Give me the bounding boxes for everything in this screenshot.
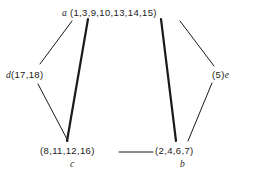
node-a-name: a [62, 8, 67, 18]
node-e-name: e [225, 70, 229, 80]
node-a: a(1,3,9,10,13,14,15) [62, 8, 157, 19]
node-b-set: (2,4,6,7) [155, 145, 194, 156]
node-e-set: (5) [212, 69, 225, 80]
edge-a-d [40, 21, 72, 64]
edge-a-c [67, 19, 88, 141]
node-d-set: (17,18) [11, 69, 44, 80]
edge-d-c [38, 84, 68, 141]
edge-a-b [161, 19, 176, 141]
node-b-name: b [180, 160, 185, 170]
edge-layer [0, 0, 254, 175]
graph-diagram: a(1,3,9,10,13,14,15) d(17,18) (5)e (8,11… [0, 0, 254, 175]
node-c: (8,11,12,16) [40, 146, 95, 156]
edge-a-e [180, 21, 214, 66]
node-e: (5)e [212, 70, 229, 81]
node-b: (2,4,6,7) [155, 146, 194, 156]
node-c-name: c [70, 160, 74, 170]
node-a-set: (1,3,9,10,13,14,15) [70, 7, 157, 18]
edge-e-b [188, 83, 212, 141]
node-d: d(17,18) [6, 70, 44, 81]
node-c-set: (8,11,12,16) [40, 145, 95, 156]
